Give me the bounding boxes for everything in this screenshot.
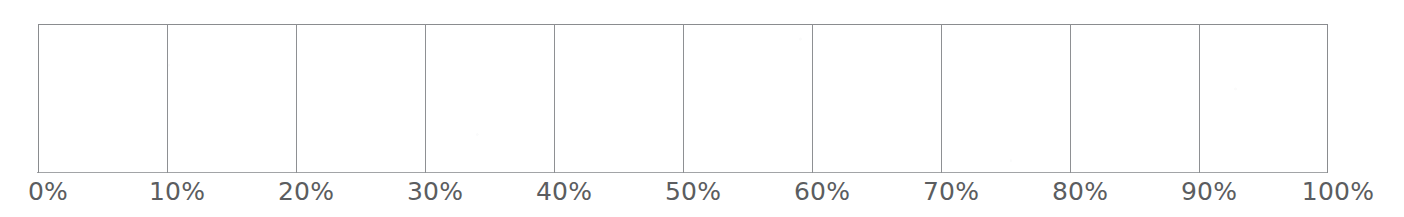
x-tick-label-20pct: 20% (278, 176, 334, 207)
x-tick-label-100pct: 100% (1302, 176, 1374, 207)
x-tick-label-60pct: 60% (794, 176, 850, 207)
x-tick-label-70pct: 70% (923, 176, 979, 207)
x-tick-label-90pct: 90% (1181, 176, 1237, 207)
gridline-20pct (296, 24, 297, 173)
plot-left-border (38, 24, 39, 173)
plot-area (38, 24, 1328, 173)
x-tick-label-10pct: 10% (149, 176, 205, 207)
gridline-80pct (1070, 24, 1071, 173)
plot-right-border (1327, 24, 1328, 173)
x-tick-label-0pct: 0% (28, 176, 68, 207)
x-tick-label-40pct: 40% (536, 176, 592, 207)
gridline-90pct (1199, 24, 1200, 173)
percent-scale-figure: 0%10%20%30%40%50%60%70%80%90%100% (0, 0, 1404, 217)
gridline-40pct (554, 24, 555, 173)
gridline-50pct (683, 24, 684, 173)
gridline-30pct (425, 24, 426, 173)
gridline-10pct (167, 24, 168, 173)
x-axis-tick-labels: 0%10%20%30%40%50%60%70%80%90%100% (0, 176, 1404, 217)
gridline-70pct (941, 24, 942, 173)
x-tick-label-50pct: 50% (665, 176, 721, 207)
x-tick-label-30pct: 30% (407, 176, 463, 207)
gridline-60pct (812, 24, 813, 173)
x-tick-label-80pct: 80% (1052, 176, 1108, 207)
